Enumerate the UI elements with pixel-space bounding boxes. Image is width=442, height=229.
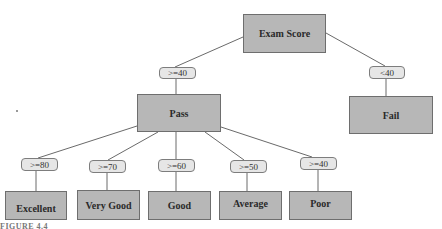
condition-poor-ge40: >=40	[300, 157, 337, 170]
condition-label: >=70	[98, 162, 117, 172]
condition-fail-lt40: <40	[369, 66, 405, 79]
condition-excellent-ge80: >=80	[21, 158, 58, 171]
node-label: Pass	[170, 108, 189, 119]
node-good: Good	[148, 191, 211, 220]
condition-label: >=40	[168, 68, 187, 78]
node-exam-score: Exam Score	[243, 14, 326, 53]
node-pass: Pass	[137, 94, 221, 132]
condition-label: >=80	[30, 160, 49, 170]
node-average: Average	[219, 191, 282, 220]
condition-very-good-ge70: >=70	[89, 160, 126, 173]
edge-exam-to-pass-upper	[175, 37, 243, 67]
node-fail: Fail	[349, 96, 433, 134]
condition-average-ge50: >=50	[230, 160, 267, 173]
stray-mark	[16, 110, 18, 112]
node-label: Average	[233, 198, 268, 209]
condition-label: >=60	[167, 161, 186, 171]
condition-label: >=40	[309, 159, 328, 169]
node-label: Poor	[310, 198, 331, 209]
edge-exam-to-fail-upper	[326, 33, 385, 66]
condition-pass-ge40: >=40	[159, 67, 196, 79]
node-label: Fail	[383, 110, 400, 121]
node-label: Good	[168, 200, 191, 211]
node-poor: Poor	[289, 191, 352, 220]
condition-label: >=50	[239, 162, 258, 172]
figure-caption: FIGURE 4.4	[0, 222, 48, 229]
condition-good-ge60: >=60	[158, 159, 195, 172]
node-label: Exam Score	[259, 28, 310, 39]
condition-label: <40	[380, 68, 394, 78]
node-label: Excellent	[16, 203, 55, 214]
node-very-good: Very Good	[77, 190, 140, 220]
node-excellent: Excellent	[5, 191, 67, 220]
node-label: Very Good	[85, 200, 131, 211]
